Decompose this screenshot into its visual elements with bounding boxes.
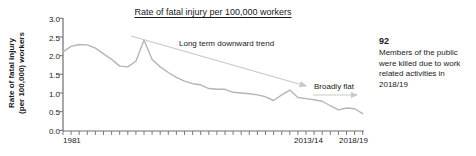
callout-number: 92 — [379, 36, 473, 47]
callout-text: Members of the public were killed due to… — [379, 48, 460, 89]
x-axis-ticks — [63, 131, 363, 135]
fatal-injury-rate-infographic: Rate of fatal injury per 100,000 workers… — [0, 0, 476, 156]
fatal-injury-rate-line — [63, 40, 363, 114]
downward-trend-arrow — [131, 36, 306, 86]
callout-public-fatalities: 92 Members of the public were killed due… — [379, 36, 473, 90]
